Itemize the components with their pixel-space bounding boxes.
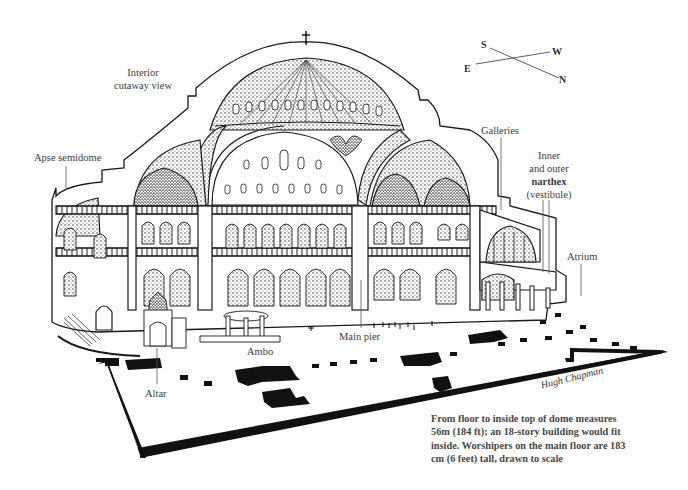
label-narthex: Inner and outer narthex (vestibule) bbox=[522, 149, 576, 201]
label-main-pier: Main pier bbox=[339, 330, 380, 343]
label-atrium: Atrium bbox=[567, 250, 597, 263]
label-line: narthex bbox=[522, 175, 576, 188]
caption: From floor to inside top of dome measure… bbox=[431, 412, 681, 466]
label-interior-cutaway: Interior cutaway view bbox=[114, 66, 172, 92]
caption-line: From floor to inside top of dome measure… bbox=[431, 412, 681, 425]
compass-icon bbox=[476, 48, 559, 78]
compass-south: S bbox=[481, 39, 487, 50]
caption-line: inside. Worshipers on the main floor are… bbox=[431, 439, 681, 452]
label-ambo: Ambo bbox=[247, 345, 273, 358]
caption-line: 56m (184 ft); an 18-story building would… bbox=[431, 425, 681, 438]
label-altar: Altar bbox=[145, 387, 167, 400]
compass-west: W bbox=[552, 46, 562, 57]
label-line: Inner bbox=[522, 149, 576, 162]
label-line: (vestibule) bbox=[522, 188, 576, 201]
compass-east: E bbox=[464, 63, 471, 74]
compass-north: N bbox=[559, 74, 566, 85]
label-line: Interior bbox=[114, 66, 172, 79]
label-line: and outer bbox=[522, 162, 576, 175]
label-apse-semidome: Apse semidome bbox=[34, 151, 101, 164]
label-galleries: Galleries bbox=[481, 124, 519, 137]
caption-line: cm (6 feet) tall, drawn to scale bbox=[431, 452, 681, 465]
label-line: cutaway view bbox=[114, 79, 172, 92]
